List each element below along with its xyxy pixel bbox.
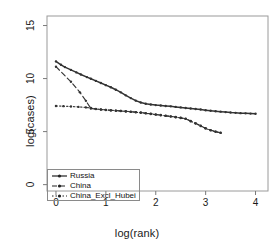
plot-canvas [0,0,274,242]
data-point [55,66,57,68]
data-point [219,132,221,134]
legend-key-icon [51,191,68,201]
data-point [95,80,97,82]
legend-key-icon [51,171,68,181]
data-point [100,108,102,110]
data-point [70,81,72,83]
y-tick-label: 5 [25,123,36,139]
data-point [105,109,107,111]
data-point [120,91,122,93]
data-point [244,112,246,114]
data-point [85,100,87,102]
x-tick-label: 3 [196,197,216,208]
data-point [80,73,82,75]
data-point [180,117,182,119]
data-point [125,110,127,112]
x-tick-label: 4 [246,197,266,208]
x-tick-label: 2 [146,197,166,208]
data-point [64,66,66,68]
data-point [180,106,182,108]
data-point [55,60,57,62]
data-point [145,103,147,105]
data-point [85,106,87,108]
data-point [194,108,196,110]
data-point [199,125,201,127]
legend-label: China [68,181,91,191]
data-point [115,110,117,112]
data-point [105,84,107,86]
data-point [90,78,92,80]
data-point [224,111,226,113]
data-point [204,109,206,111]
data-point [60,64,62,66]
legend-item-china-excl-hubei[interactable]: China_Excl_Hubei [48,191,139,201]
data-point [86,76,88,78]
data-point [229,111,231,113]
data-point [90,107,92,109]
data-point [70,105,72,107]
data-point [150,103,152,105]
data-point [189,107,191,109]
data-point [75,71,77,73]
x-axis-title: log(rank) [0,227,274,239]
data-point [184,107,186,109]
data-point [150,113,152,115]
data-point [135,111,137,113]
data-point [165,105,167,107]
legend-key-icon [51,181,68,191]
data-point [219,110,221,112]
legend-label: China_Excl_Hubei [68,191,136,201]
data-point [175,106,177,108]
y-tick-label: 0 [25,176,36,192]
data-point [204,127,206,129]
chart-figure: log(cases) log(rank) 051015 01234 Russia… [0,0,274,242]
data-point [79,91,81,93]
data-point [209,110,211,112]
data-point [175,116,177,118]
data-point [155,104,157,106]
legend-item-russia[interactable]: Russia [48,171,139,181]
data-point [125,94,127,96]
data-point [184,118,186,120]
data-point [249,112,251,114]
chart-legend: RussiaChinaChina_Excl_Hubei [47,169,140,201]
data-point [100,82,102,84]
data-point [77,106,79,108]
data-point [214,110,216,112]
data-point [199,108,201,110]
data-point [130,97,132,99]
data-point [145,112,147,114]
data-point [130,111,132,113]
data-point [214,131,216,133]
data-point [254,113,256,115]
data-point [160,114,162,116]
data-point [155,113,157,115]
data-point [120,110,122,112]
legend-label: Russia [68,171,94,181]
legend-item-china[interactable]: China [48,181,139,191]
data-point [110,86,112,88]
data-point [140,112,142,114]
data-point [55,105,57,107]
data-point [170,115,172,117]
y-tick-label: 10 [25,70,36,86]
data-point [115,89,117,91]
data-point [239,112,241,114]
data-point [234,112,236,114]
data-point [135,99,137,101]
data-point [62,105,64,107]
data-point [110,109,112,111]
data-point [189,120,191,122]
data-point [170,105,172,107]
data-point [95,108,97,110]
data-point [194,122,196,124]
data-point [165,115,167,117]
data-point [140,101,142,103]
data-point [160,104,162,106]
data-point [70,69,72,71]
data-point [209,129,211,131]
y-tick-label: 15 [25,17,36,33]
